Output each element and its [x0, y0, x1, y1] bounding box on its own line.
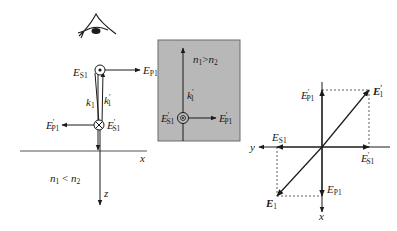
es1p-into-page-symbol [94, 120, 104, 130]
right-panel: E′P1 E′1 ES1 E′S1 y x E1 EP1 [249, 82, 390, 222]
label-k1: k1 [86, 96, 95, 110]
label-medium-left: n1 < n2 [50, 172, 80, 186]
label-k1-prime-inset: k′1 [187, 88, 195, 103]
k1-reflected-ray [102, 72, 103, 123]
label-x-axis-right: x [318, 210, 324, 222]
label-z-axis: z [103, 187, 109, 199]
left-panel: ES1 EP1 k1 k′1 E′P1 E′S1 x z n1 < n2 [20, 14, 158, 205]
label-ep1-prime: E′P1 [45, 118, 60, 133]
label-ep1-prime-right: E′P1 [300, 88, 315, 103]
label-k1-prime: k′1 [104, 93, 112, 108]
label-es1: ES1 [72, 66, 88, 80]
e1p-vector [322, 90, 369, 147]
label-ep1: EP1 [142, 64, 158, 78]
label-es1-prime-right: E′S1 [360, 151, 375, 166]
label-e1: E1 [265, 197, 277, 211]
label-ep1-right: EP1 [326, 183, 342, 197]
e1-vector [277, 147, 322, 196]
inset-panel: n1>n2 k′1 E′S1 E′P1 [158, 40, 240, 141]
label-y-axis: y [249, 141, 255, 153]
eye-icon [78, 14, 116, 38]
es1p-out-of-page-symbol-inset [178, 113, 189, 124]
es1-out-of-page-symbol [95, 65, 105, 75]
label-es1-prime: E′S1 [106, 118, 121, 133]
label-e1-prime: E′1 [372, 84, 383, 99]
polarization-diagram: ES1 EP1 k1 k′1 E′P1 E′S1 x z n1 < n2 n1>… [0, 0, 397, 231]
label-es1-right: ES1 [271, 131, 287, 145]
label-x-axis-left: x [139, 152, 145, 164]
